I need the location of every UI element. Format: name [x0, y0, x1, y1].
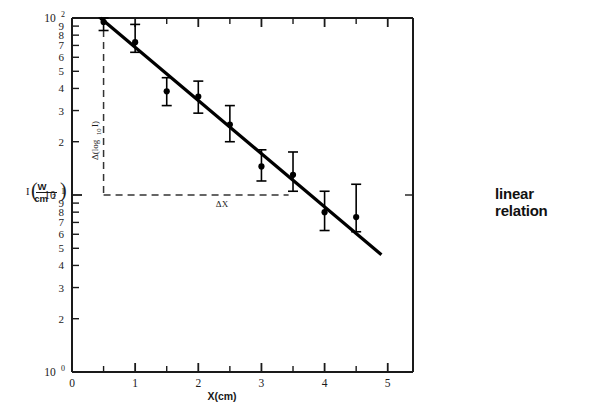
y-tick-label: 5	[59, 242, 65, 254]
data-point	[162, 78, 172, 106]
data-marker	[258, 163, 264, 169]
data-marker	[195, 93, 201, 99]
linear-fit-line	[100, 18, 381, 255]
y-axis-title: I ( ) W cm 2	[26, 179, 67, 204]
y-tick-label: 6	[59, 228, 65, 240]
y-tick-label: 6	[59, 51, 65, 63]
delta-log-suffix: I)	[90, 121, 100, 127]
figure-container: 1029876543210198765432100 012345 I ( ) W…	[0, 0, 605, 411]
side-note-line-2: relation	[495, 202, 595, 219]
x-tick-label: 0	[69, 377, 75, 389]
delta-log-prefix: Δ(log	[90, 139, 100, 160]
data-marker	[100, 19, 106, 25]
data-point	[288, 152, 298, 191]
data-marker	[321, 209, 327, 215]
y-tick-label: 3	[59, 105, 65, 117]
y-tick-label-decade: 10	[44, 12, 56, 24]
x-tick-label: 5	[385, 377, 391, 389]
y-tick-label: 7	[59, 216, 65, 228]
x-tick-label: 2	[195, 377, 201, 389]
y-tick-label: 7	[59, 39, 65, 51]
y-tick-label: 4	[59, 259, 65, 271]
y-tick-label: 5	[59, 65, 65, 77]
delta-log-annotation: Δ(log 10 I)	[90, 121, 102, 160]
side-note-line-1: linear	[495, 185, 595, 202]
x-tick-label: 4	[322, 377, 328, 389]
delta-log-subscript: 10	[95, 129, 102, 136]
y-tick-label: 2	[59, 313, 65, 325]
data-marker	[353, 214, 359, 220]
data-marker	[132, 39, 138, 45]
y-axis-title-denominator-exp: 2	[52, 193, 56, 200]
data-point	[351, 184, 361, 231]
data-marker	[290, 172, 296, 178]
y-axis-title-numerator: W	[38, 181, 47, 192]
data-marker	[227, 121, 233, 127]
x-axis-title: X(cm)	[207, 390, 236, 402]
y-tick-label-exponent: 0	[61, 364, 65, 373]
y-tick-label: 2	[59, 136, 65, 148]
side-note: linear relation	[495, 185, 595, 219]
y-tick-label-exponent: 2	[61, 10, 65, 19]
x-tick-label: 3	[259, 377, 265, 389]
y-axis-title-prefix: I	[26, 186, 30, 197]
delta-x-annotation: ΔX	[216, 199, 229, 209]
x-axis-tick-labels: 012345	[69, 377, 391, 389]
x-tick-label: 1	[132, 377, 138, 389]
y-axis-paren-right: )	[60, 179, 67, 202]
fit-line	[100, 18, 381, 255]
y-tick-label: 4	[59, 82, 65, 94]
data-marker	[164, 88, 170, 94]
y-axis-title-denominator: cm	[34, 193, 48, 204]
y-tick-label-decade: 10	[44, 366, 56, 378]
y-tick-label: 3	[59, 282, 65, 294]
